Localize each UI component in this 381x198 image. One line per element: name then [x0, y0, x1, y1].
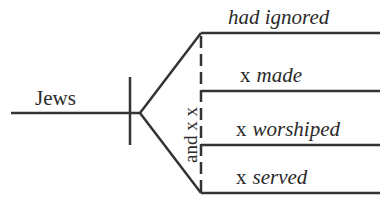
predicate-label-2: xmade	[240, 65, 302, 86]
predicate-verb-3: worshiped	[253, 117, 341, 141]
sentence-diagram: Jews and x x had ignored xmade xworshipe…	[0, 0, 381, 198]
conjunction-label: and x x	[181, 107, 200, 163]
subject-label: Jews	[35, 88, 76, 109]
ellipsis-marker-4: x	[236, 165, 247, 189]
predicate-label-1: had ignored	[228, 7, 329, 28]
ellipsis-marker-2: x	[240, 63, 251, 87]
predicate-verb-1: had ignored	[228, 5, 329, 29]
predicate-verb-2: made	[257, 63, 303, 87]
predicate-label-3: xworshiped	[236, 119, 340, 140]
predicate-verb-4: served	[253, 165, 308, 189]
fork-upper	[140, 33, 201, 113]
predicate-label-4: xserved	[236, 167, 307, 188]
ellipsis-marker-3: x	[236, 117, 247, 141]
